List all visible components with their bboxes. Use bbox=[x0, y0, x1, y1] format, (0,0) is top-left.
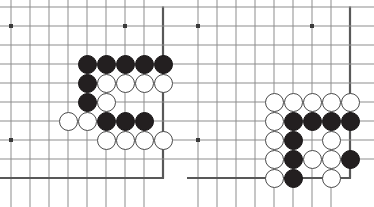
black-stone bbox=[116, 55, 135, 74]
black-stone bbox=[284, 131, 303, 150]
white-stone bbox=[116, 131, 135, 150]
board-surface-left bbox=[0, 0, 187, 207]
white-stone bbox=[303, 93, 322, 112]
white-stone bbox=[265, 169, 284, 188]
black-stone bbox=[341, 150, 360, 169]
board-surface-right bbox=[187, 0, 374, 207]
white-stone bbox=[303, 150, 322, 169]
black-stone bbox=[154, 55, 173, 74]
black-stone bbox=[97, 55, 116, 74]
white-stone bbox=[135, 74, 154, 93]
black-stone bbox=[284, 112, 303, 131]
white-stone bbox=[322, 169, 341, 188]
black-stone bbox=[135, 112, 154, 131]
go-board-left bbox=[0, 0, 187, 207]
white-stone bbox=[97, 74, 116, 93]
white-stone bbox=[97, 93, 116, 112]
white-stone bbox=[135, 131, 154, 150]
black-stone bbox=[78, 55, 97, 74]
white-stone bbox=[265, 112, 284, 131]
black-stone bbox=[341, 112, 360, 131]
black-stone bbox=[284, 150, 303, 169]
white-stone bbox=[265, 93, 284, 112]
white-stone bbox=[341, 93, 360, 112]
black-stone bbox=[322, 112, 341, 131]
white-stone bbox=[284, 93, 303, 112]
go-board-right bbox=[187, 0, 374, 207]
white-stone bbox=[59, 112, 78, 131]
white-stone bbox=[322, 150, 341, 169]
stone-layer-right bbox=[187, 0, 374, 207]
black-stone bbox=[284, 169, 303, 188]
white-stone bbox=[78, 112, 97, 131]
white-stone bbox=[97, 131, 116, 150]
white-stone bbox=[154, 74, 173, 93]
go-diagram-pair bbox=[0, 0, 374, 207]
black-stone bbox=[303, 112, 322, 131]
white-stone bbox=[322, 131, 341, 150]
black-stone bbox=[135, 55, 154, 74]
white-stone bbox=[116, 74, 135, 93]
black-stone bbox=[97, 112, 116, 131]
white-stone bbox=[265, 131, 284, 150]
white-stone bbox=[265, 150, 284, 169]
stone-layer-left bbox=[0, 0, 187, 207]
white-stone bbox=[322, 93, 341, 112]
black-stone bbox=[78, 93, 97, 112]
white-stone bbox=[154, 131, 173, 150]
black-stone bbox=[78, 74, 97, 93]
black-stone bbox=[116, 112, 135, 131]
